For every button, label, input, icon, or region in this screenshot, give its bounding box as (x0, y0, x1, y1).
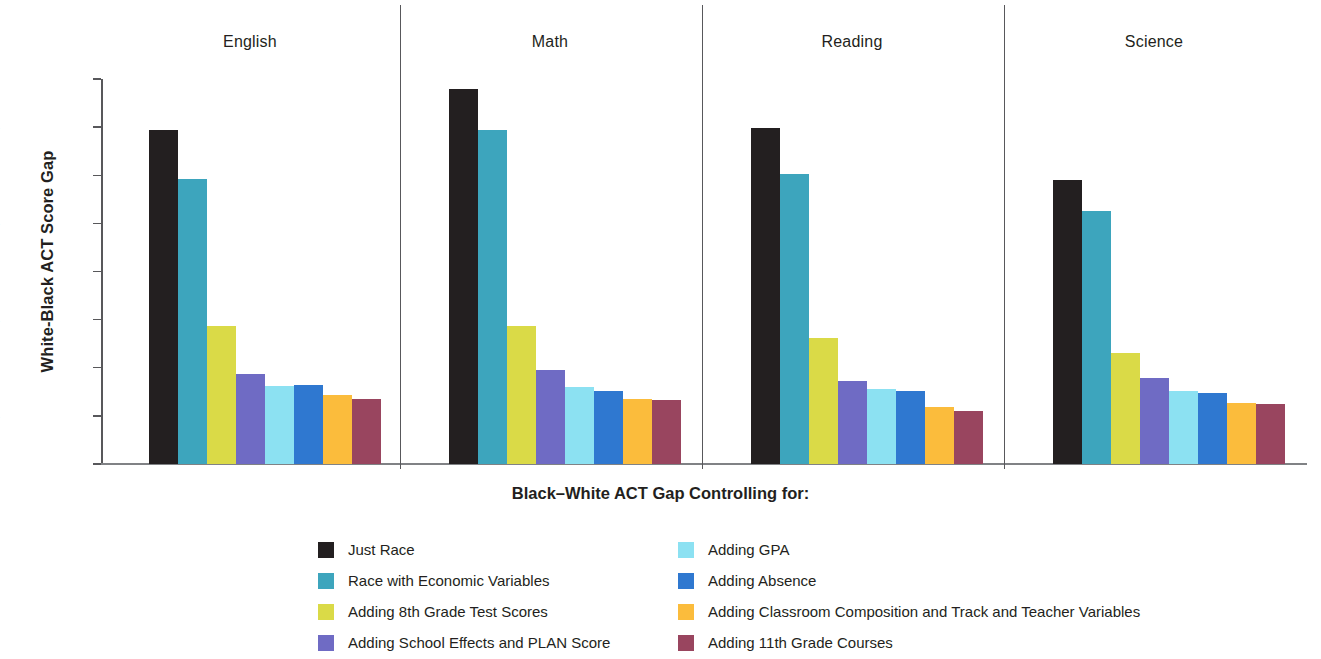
legend-item[interactable]: Adding 11th Grade Courses (678, 627, 1308, 658)
plot-area: 4.03.53.02.52.01.51.00.50 EnglishMathRea… (101, 5, 1307, 471)
legend-swatch-icon (678, 573, 694, 589)
legend-item[interactable]: Adding GPA (678, 534, 1308, 565)
panel-bars (1005, 78, 1303, 464)
panel-reading: Reading (703, 5, 1001, 471)
legend-item-label: Adding Absence (708, 573, 816, 588)
bar (449, 89, 478, 464)
bar (751, 128, 780, 464)
legend-item-label: Adding 11th Grade Courses (708, 635, 893, 650)
bar (867, 389, 896, 464)
panel-bars (401, 78, 699, 464)
legend-item-label: Adding School Effects and PLAN Score (348, 635, 610, 650)
bar (1053, 180, 1082, 464)
bar (1111, 353, 1140, 464)
legend-item[interactable]: Adding Classroom Composition and Track a… (678, 596, 1308, 627)
panel-separator (1004, 5, 1005, 469)
y-axis-tick (93, 78, 101, 79)
bar (780, 174, 809, 464)
legend-swatch-icon (318, 542, 334, 558)
legend-item[interactable]: Adding Absence (678, 565, 1308, 596)
bar (954, 411, 983, 464)
panel-english: English (101, 5, 399, 471)
y-axis-title: White-Black ACT Score Gap (38, 97, 57, 427)
bar (294, 385, 323, 464)
bar (809, 338, 838, 464)
bar (1256, 404, 1285, 464)
bar (565, 387, 594, 464)
bar (1140, 378, 1169, 464)
y-axis-tick (93, 271, 101, 272)
panel-separator (702, 5, 703, 469)
bar (1082, 211, 1111, 464)
panel-title: Science (1005, 33, 1303, 51)
legend-item-label: Adding GPA (708, 542, 789, 557)
legend-item[interactable]: Just Race (318, 534, 678, 565)
legend-item-label: Adding 8th Grade Test Scores (348, 604, 548, 619)
bar (925, 407, 954, 464)
panel-title: Reading (703, 33, 1001, 51)
bar (838, 381, 867, 464)
bar (1169, 391, 1198, 464)
legend-item[interactable]: Adding 8th Grade Test Scores (318, 596, 678, 627)
panel-math: Math (401, 5, 699, 471)
legend-swatch-icon (318, 635, 334, 651)
legend-swatch-icon (678, 542, 694, 558)
bar (536, 370, 565, 464)
bar (623, 399, 652, 464)
panel-bars (101, 78, 399, 464)
bar (265, 386, 294, 464)
bar (352, 399, 381, 464)
y-axis-tick (93, 223, 101, 224)
bar (207, 326, 236, 464)
legend-column-left: Just RaceRace with Economic VariablesAdd… (318, 534, 678, 658)
act-score-gap-bar-chart: White-Black ACT Score Gap 4.03.53.02.52.… (0, 0, 1321, 659)
bar (652, 400, 681, 464)
panel-science: Science (1005, 5, 1303, 471)
legend-column-right: Adding GPAAdding AbsenceAdding Classroom… (678, 534, 1308, 658)
panel-separator (400, 5, 401, 469)
bar (236, 374, 265, 464)
bar (478, 130, 507, 464)
legend-item-label: Race with Economic Variables (348, 573, 549, 588)
panel-bars (703, 78, 1001, 464)
legend-item-label: Adding Classroom Composition and Track a… (708, 604, 1140, 619)
y-axis-tick (93, 319, 101, 320)
legend-swatch-icon (318, 573, 334, 589)
bar (178, 179, 207, 464)
panel-title: Math (401, 33, 699, 51)
y-axis-tick (93, 415, 101, 416)
panel-title: English (101, 33, 399, 51)
legend-swatch-icon (678, 604, 694, 620)
y-axis-tick (93, 126, 101, 127)
legend-swatch-icon (318, 604, 334, 620)
bar (323, 395, 352, 464)
bar (1198, 393, 1227, 464)
y-axis-tick (93, 175, 101, 176)
legend-item[interactable]: Race with Economic Variables (318, 565, 678, 596)
y-axis-tick (93, 367, 101, 368)
bar (896, 391, 925, 464)
bar (594, 391, 623, 464)
legend-swatch-icon (678, 635, 694, 651)
bar (1227, 403, 1256, 464)
legend-item-label: Just Race (348, 542, 415, 557)
bar (149, 130, 178, 464)
legend-item[interactable]: Adding School Effects and PLAN Score (318, 627, 678, 658)
y-axis-tick (93, 463, 101, 464)
bar (507, 326, 536, 464)
x-axis-title: Black–White ACT Gap Controlling for: (0, 484, 1321, 503)
